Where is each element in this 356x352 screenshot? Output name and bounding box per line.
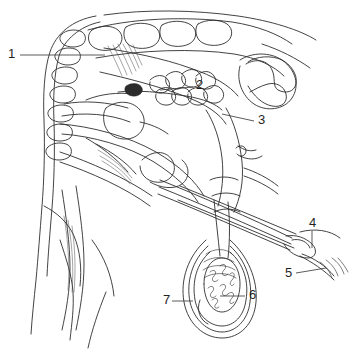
seminal-dark-mark: [125, 84, 143, 97]
anatomy-drawing: 1234567: [0, 0, 356, 352]
label-number-7: 7: [163, 292, 170, 307]
label-number-3: 3: [258, 112, 265, 127]
label-number-5: 5: [285, 265, 292, 280]
label-number-1: 1: [8, 46, 15, 61]
label-number-6: 6: [249, 287, 256, 302]
label-number-4: 4: [309, 215, 316, 230]
figure-background: [0, 0, 356, 352]
anatomical-figure: 1234567: [0, 0, 356, 352]
label-number-2: 2: [196, 77, 203, 92]
